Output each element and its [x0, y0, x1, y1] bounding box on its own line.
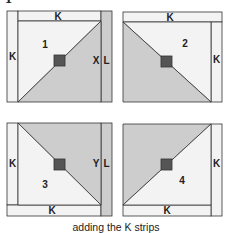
- label-l: L: [103, 158, 109, 169]
- k-strip-right: [211, 124, 222, 216]
- l-strip: [101, 123, 112, 216]
- center-square: [54, 159, 65, 170]
- label-block-number: 3: [42, 179, 48, 190]
- center-square: [54, 55, 65, 66]
- label-k-top: K: [166, 12, 174, 23]
- label-y: Y: [93, 158, 100, 169]
- label-block-number: 2: [182, 38, 188, 49]
- label-l: L: [103, 55, 109, 66]
- label-k-left: K: [9, 51, 17, 62]
- label-block-number: 4: [179, 175, 185, 186]
- label-block-number: 1: [42, 39, 48, 50]
- center-square: [161, 56, 172, 67]
- caption: adding the K strips: [0, 221, 232, 233]
- label-k-bottom: K: [163, 205, 171, 216]
- block-3: [7, 123, 112, 216]
- label-k-right: K: [213, 54, 221, 65]
- block-4: [123, 124, 222, 216]
- label-k-right: K: [213, 158, 221, 169]
- block-2: [123, 12, 222, 102]
- label-k-top: K: [54, 11, 62, 22]
- label-x: X: [93, 55, 100, 66]
- quilt-block-diagram: K K 1 X L K K 2 K K 3 Y L K K 4: [0, 0, 232, 233]
- label-k-bottom: K: [48, 205, 56, 216]
- label-k-left: K: [9, 158, 17, 169]
- center-square: [161, 159, 172, 170]
